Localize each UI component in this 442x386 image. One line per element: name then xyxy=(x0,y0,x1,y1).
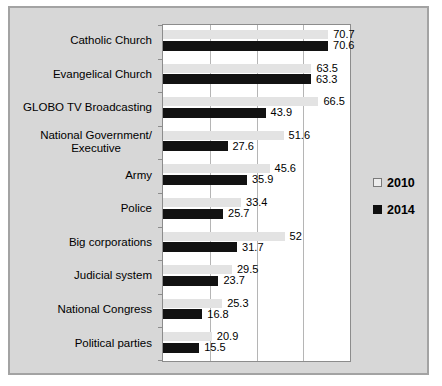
value-label-2014: 63.3 xyxy=(316,74,337,85)
bar-2014 xyxy=(163,175,247,185)
tick-mark xyxy=(158,92,162,93)
tick-mark xyxy=(158,59,162,60)
value-label-2014: 70.6 xyxy=(333,40,354,51)
bar-group: 66.543.9 xyxy=(163,92,350,126)
category-label: National Government/ Executive xyxy=(10,125,156,159)
value-label-2010: 45.6 xyxy=(275,163,296,174)
value-label-2014: 23.7 xyxy=(223,275,244,286)
value-label-2014: 35.9 xyxy=(252,174,273,185)
category-label: Big corporations xyxy=(10,226,156,260)
category-label: Political parties xyxy=(10,326,156,360)
bar-2014 xyxy=(163,74,311,84)
bar-group: 29.523.7 xyxy=(163,260,350,294)
value-label-2014: 43.9 xyxy=(271,107,292,118)
category-label: Judicial system xyxy=(10,259,156,293)
value-label-2010: 51.6 xyxy=(289,130,310,141)
category-label: Evangelical Church xyxy=(10,58,156,92)
bar-group: 45.635.9 xyxy=(163,159,350,193)
tick-mark xyxy=(158,193,162,194)
bar-group: 51.627.6 xyxy=(163,126,350,160)
legend-swatch-2010 xyxy=(373,178,382,187)
bar-2010 xyxy=(163,97,318,106)
legend: 2010 2014 xyxy=(373,176,415,230)
bar-2010 xyxy=(163,164,270,173)
value-label-2014: 27.6 xyxy=(233,141,254,152)
bar-2010 xyxy=(163,332,212,341)
tick-mark xyxy=(158,260,162,261)
plot-area: 70.770.663.563.366.543.951.627.645.635.9… xyxy=(162,24,351,362)
value-label-2010: 33.4 xyxy=(246,197,267,208)
legend-item-2010: 2010 xyxy=(373,176,415,189)
tick-mark xyxy=(158,327,162,328)
bar-group: 5231.7 xyxy=(163,227,350,261)
bar-2010 xyxy=(163,265,232,274)
bar-2010 xyxy=(163,299,222,308)
value-label-2014: 25.7 xyxy=(228,208,249,219)
tick-mark xyxy=(158,227,162,228)
bar-2014 xyxy=(163,209,223,219)
bar-2014 xyxy=(163,242,237,252)
bar-2010 xyxy=(163,64,311,73)
value-label-2010: 66.5 xyxy=(323,96,344,107)
chart-frame: Catholic ChurchEvangelical ChurchGLOBO T… xyxy=(8,6,429,375)
category-axis-labels: Catholic ChurchEvangelical ChurchGLOBO T… xyxy=(10,24,156,360)
bar-2010 xyxy=(163,131,284,140)
bar-2014 xyxy=(163,343,199,353)
bar-2014 xyxy=(163,108,266,118)
bar-2010 xyxy=(163,232,285,241)
category-label: Catholic Church xyxy=(10,24,156,58)
tick-mark xyxy=(158,126,162,127)
bar-group: 25.316.8 xyxy=(163,294,350,328)
category-label: GLOBO TV Broadcasting xyxy=(10,91,156,125)
category-label: National Congress xyxy=(10,293,156,327)
value-label-2014: 15.5 xyxy=(204,342,225,353)
tick-mark xyxy=(158,25,162,26)
bar-2014 xyxy=(163,309,202,319)
bar-group: 70.770.6 xyxy=(163,25,350,59)
value-label-2010: 25.3 xyxy=(227,298,248,309)
category-label: Police xyxy=(10,192,156,226)
bar-2010 xyxy=(163,198,241,207)
bar-2014 xyxy=(163,141,228,151)
bar-group: 63.563.3 xyxy=(163,59,350,93)
tick-mark xyxy=(158,159,162,160)
tick-mark xyxy=(158,360,162,361)
legend-swatch-2014 xyxy=(373,205,382,214)
bar-2014 xyxy=(163,41,328,51)
value-label-2010: 63.5 xyxy=(316,63,337,74)
value-label-2010: 52 xyxy=(290,231,302,242)
bar-2014 xyxy=(163,276,218,286)
legend-label-2010: 2010 xyxy=(387,176,415,190)
tick-mark xyxy=(158,294,162,295)
category-label: Army xyxy=(10,158,156,192)
value-label-2014: 31.7 xyxy=(242,242,263,253)
legend-label-2014: 2014 xyxy=(387,203,415,217)
value-label-2014: 16.8 xyxy=(207,309,228,320)
bar-group: 20.915.5 xyxy=(163,327,350,361)
bar-2010 xyxy=(163,30,328,39)
bar-group: 33.425.7 xyxy=(163,193,350,227)
legend-item-2014: 2014 xyxy=(373,203,415,216)
